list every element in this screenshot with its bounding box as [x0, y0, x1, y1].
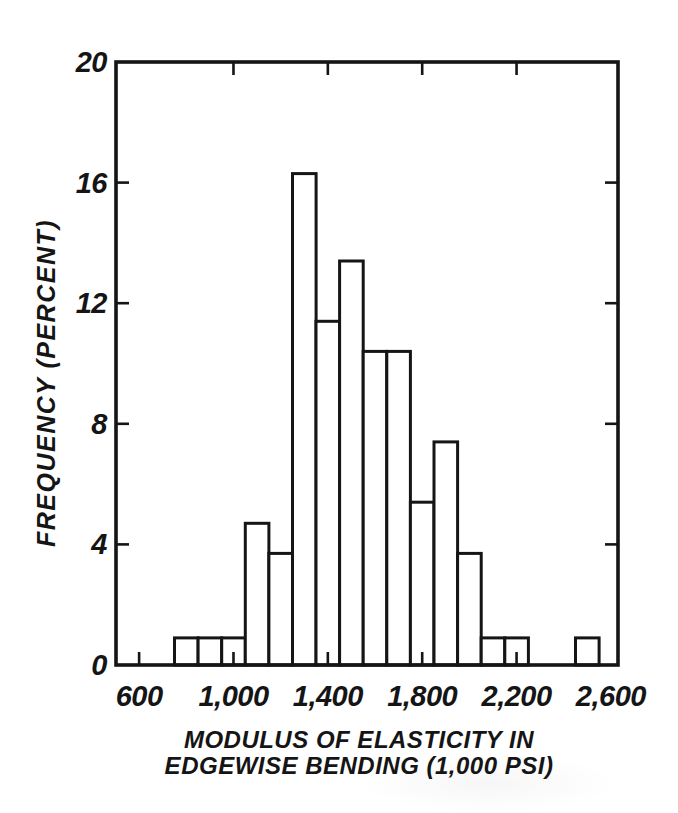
- histogram-bar: [458, 553, 482, 665]
- histogram-bar: [269, 553, 293, 665]
- histogram-bar: [410, 502, 434, 665]
- histogram-bar: [434, 442, 458, 665]
- histogram-bar: [293, 174, 317, 665]
- histogram-bar: [198, 638, 222, 665]
- y-axis-title: FREQUENCY (PERCENT): [32, 219, 61, 547]
- x-axis-title-line2: EDGEWISE BENDING (1,000 PSI): [165, 753, 554, 779]
- x-axis-title: MODULUS OF ELASTICITY IN EDGEWISE BENDIN…: [165, 727, 554, 779]
- x-tick-label: 1,000: [198, 680, 268, 712]
- x-tick-label: 1,800: [387, 680, 457, 712]
- y-tick-label: 4: [90, 528, 107, 560]
- y-tick-label: 12: [76, 287, 108, 319]
- x-axis-title-line1: MODULUS OF ELASTICITY IN: [165, 727, 554, 753]
- x-tick-label: 2,200: [481, 680, 552, 712]
- histogram-bar: [316, 321, 340, 665]
- y-tick-label: 0: [91, 649, 107, 681]
- y-tick-label: 20: [75, 46, 108, 78]
- x-tick-label: 2,600: [575, 680, 646, 712]
- histogram-chart: 0481216206001,0001,4001,8002,2002,600: [0, 0, 678, 813]
- histogram-bar: [481, 638, 505, 665]
- histogram-bar: [175, 638, 199, 665]
- x-tick-label: 1,400: [293, 680, 363, 712]
- histogram-bar: [340, 261, 364, 665]
- y-tick-label: 16: [76, 167, 109, 199]
- histogram-bar: [576, 638, 600, 665]
- histogram-bar: [363, 351, 387, 665]
- scanned-figure-page: 0481216206001,0001,4001,8002,2002,600 FR…: [0, 0, 678, 813]
- histogram-bar: [245, 523, 269, 665]
- histogram-figure: 0481216206001,0001,4001,8002,2002,600 FR…: [0, 0, 678, 813]
- x-tick-label: 600: [116, 680, 163, 712]
- histogram-bar: [387, 351, 411, 665]
- y-tick-label: 8: [91, 408, 108, 440]
